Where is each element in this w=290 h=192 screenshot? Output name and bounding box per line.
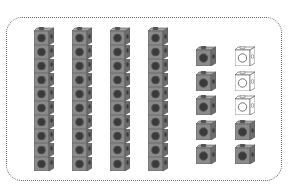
rod-cube (110, 129, 130, 143)
rod-cube (110, 157, 130, 171)
rod-cube (72, 45, 92, 59)
rod-cube (148, 59, 168, 73)
rod-cube (72, 27, 92, 41)
rod-cube (72, 115, 92, 129)
rod-cube (72, 87, 92, 101)
rod-cube (110, 101, 130, 115)
rod-cube (110, 59, 130, 73)
rod-cube (34, 45, 54, 59)
rod-cube (110, 27, 130, 41)
unit-cube-filled (196, 120, 216, 140)
rod-cube (148, 27, 168, 41)
rod-cube (148, 143, 168, 157)
rod-cube (72, 157, 92, 171)
unit-cube-filled (235, 144, 255, 164)
rod-cube (72, 101, 92, 115)
rod-cube (110, 87, 130, 101)
rod-cube (34, 157, 54, 171)
rod-cube (72, 143, 92, 157)
rod-cube (34, 73, 54, 87)
rod-cube (72, 129, 92, 143)
rod-cube (34, 101, 54, 115)
unit-cube-filled (235, 120, 255, 140)
rod-cube (34, 143, 54, 157)
rod-cube (148, 157, 168, 171)
rod-cube (72, 73, 92, 87)
unit-cube-empty (235, 71, 255, 91)
rod-cube (72, 59, 92, 73)
unit-cube-empty (235, 95, 255, 115)
rod-cube (110, 73, 130, 87)
rod-cube (110, 115, 130, 129)
rod-cube (148, 101, 168, 115)
unit-cube-empty (235, 46, 255, 66)
rod-cube (148, 87, 168, 101)
rod-cube (110, 45, 130, 59)
rod-cube (148, 115, 168, 129)
unit-cube-filled (196, 46, 216, 66)
rod-cube (148, 129, 168, 143)
unit-cube-filled (196, 71, 216, 91)
unit-cube-filled (196, 144, 216, 164)
rod-cube (34, 87, 54, 101)
rod-cube (34, 115, 54, 129)
rod-cube (34, 129, 54, 143)
rod-cube (148, 45, 168, 59)
rod-cube (34, 59, 54, 73)
rod-cube (34, 27, 54, 41)
rod-cube (148, 73, 168, 87)
unit-cube-filled (196, 95, 216, 115)
rod-cube (110, 143, 130, 157)
